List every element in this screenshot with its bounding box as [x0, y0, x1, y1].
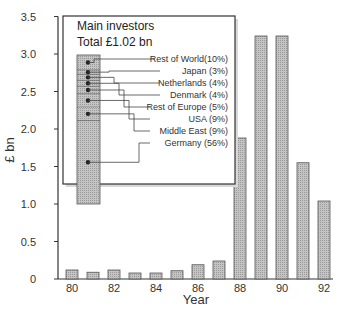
bar-91 — [297, 163, 309, 279]
legend-label: Middle East (9%) — [159, 126, 228, 136]
x-tick-label: 82 — [108, 282, 120, 294]
y-tick-label: 0 — [30, 273, 36, 285]
bar-80 — [66, 270, 78, 279]
bar-89 — [255, 36, 267, 279]
investors-inset: Main investorsTotal £1.02 bnRest of Worl… — [63, 16, 238, 204]
inset-subtitle: Total £1.02 bn — [77, 35, 152, 49]
bar-86 — [192, 265, 204, 279]
legend-label: Germany (56%) — [164, 138, 228, 148]
x-tick-label: 80 — [66, 282, 78, 294]
y-tick-label: 3.0 — [21, 48, 36, 60]
inset-title: Main investors — [77, 19, 154, 33]
x-tick-label: 88 — [234, 282, 246, 294]
bar-85 — [171, 271, 183, 279]
bar-90 — [276, 36, 288, 279]
y-tick-label: 1.0 — [21, 198, 36, 210]
x-axis-title: Year — [183, 292, 210, 307]
legend-label: USA (9%) — [188, 114, 228, 124]
bar-82 — [108, 270, 120, 279]
x-tick-label: 84 — [150, 282, 162, 294]
y-tick-label: 3.5 — [21, 11, 36, 23]
x-tick-label: 90 — [276, 282, 288, 294]
bar-92 — [318, 201, 330, 279]
bar-chart: 00.51.01.52.02.53.03.5 80828486889092 Ma… — [0, 0, 350, 318]
x-tick-label: 92 — [318, 282, 330, 294]
bar-83 — [129, 273, 141, 279]
bar-87 — [213, 261, 225, 279]
y-tick-label: 2.5 — [21, 86, 36, 98]
legend-label: Rest of Europe (5%) — [146, 102, 228, 112]
legend-label: Netherlands (4%) — [158, 78, 228, 88]
legend-label: Japan (3%) — [182, 66, 228, 76]
bar-81 — [87, 272, 99, 279]
bar-84 — [150, 273, 162, 279]
y-tick-label: 2.0 — [21, 123, 36, 135]
y-tick-label: 0.5 — [21, 236, 36, 248]
y-tick-label: 1.5 — [21, 161, 36, 173]
y-axis: 00.51.01.52.02.53.03.5 — [21, 11, 58, 286]
y-axis-title: £ bn — [2, 137, 17, 162]
legend-label: Rest of World(10%) — [150, 54, 228, 64]
legend-label: Denmark (4%) — [170, 90, 228, 100]
